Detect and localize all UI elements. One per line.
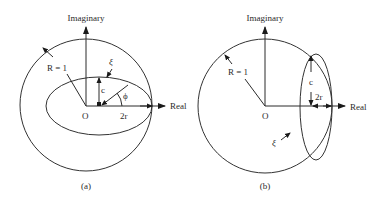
c-label: c: [101, 85, 105, 95]
panel-a: Imaginary Real R = 1 ξ c ϕ 2r O (a): [20, 13, 187, 191]
c-label: c: [309, 77, 313, 87]
imaginary-axis-label: Imaginary: [247, 13, 284, 23]
xi-pointer-arrow: [107, 69, 112, 77]
real-axis-label: Real: [170, 101, 187, 111]
xi-label: ξ: [272, 138, 276, 148]
radius-label: R = 1: [228, 67, 248, 77]
two-r-label: 2r: [120, 111, 128, 121]
xi-ellipse: [300, 54, 332, 160]
xi-pointer-arrow: [281, 133, 290, 140]
origin-label: O: [82, 111, 89, 121]
radius-pointer-arrow: [43, 48, 53, 57]
imaginary-axis-label: Imaginary: [68, 13, 105, 23]
phi-label: ϕ: [123, 91, 128, 101]
radius-label: R = 1: [47, 63, 67, 73]
two-r-label: 2r: [315, 92, 323, 102]
panel-b: Imaginary Real R = 1 c 2r ξ O (b): [198, 13, 367, 191]
phi-arc: [117, 93, 122, 106]
xi-label: ξ: [109, 57, 113, 67]
panel-a-caption: (a): [81, 181, 91, 191]
radius-line: [245, 79, 265, 106]
origin-label: O: [262, 111, 269, 121]
radius-line: [67, 74, 86, 106]
real-axis-label: Real: [350, 102, 367, 112]
radius-pointer-arrow: [225, 55, 232, 64]
figure: Imaginary Real R = 1 ξ c ϕ 2r O (a): [0, 0, 384, 202]
focus-marker: [97, 102, 101, 106]
panel-b-caption: (b): [260, 181, 271, 191]
